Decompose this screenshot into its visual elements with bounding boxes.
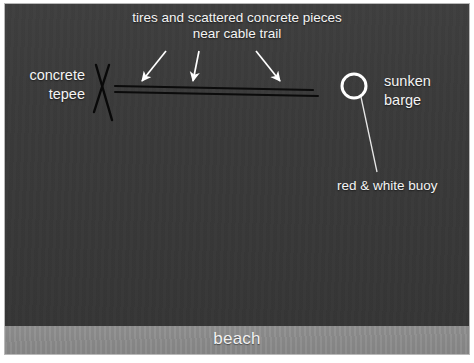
label-tires-line1: tires and scattered concrete pieces: [132, 10, 341, 25]
label-sunken-barge: sunken barge: [384, 72, 431, 110]
buoy-marker-group: [342, 74, 377, 172]
arrow-left-icon: [142, 51, 166, 81]
tepee-stroke-a: [96, 65, 112, 120]
survey-photograph: beach: [4, 3, 470, 355]
label-tires-and-concrete: tires and scattered concrete pieces near…: [5, 10, 469, 41]
label-barge-line2: barge: [384, 91, 431, 110]
pointer-arrows-group: [142, 51, 280, 81]
arrow-middle-icon: [193, 51, 199, 81]
label-tires-line2: near cable trail: [5, 26, 469, 42]
arrow-right-icon: [256, 51, 280, 81]
label-tepee-line1: concrete: [9, 66, 85, 85]
buoy-circle-icon: [342, 74, 366, 98]
label-red-and-white-buoy: red & white buoy: [337, 178, 438, 194]
label-tepee-line2: tepee: [9, 85, 85, 104]
cable-line-lower: [115, 92, 318, 96]
label-concrete-tepee: concrete tepee: [9, 66, 85, 104]
cable-trail-group: [115, 86, 318, 96]
label-barge-line1: sunken: [384, 72, 431, 91]
cable-line-upper: [115, 86, 313, 90]
figure-root: beach: [0, 0, 474, 363]
buoy-leader-line: [361, 97, 377, 172]
concrete-tepee-marker: [94, 65, 112, 120]
